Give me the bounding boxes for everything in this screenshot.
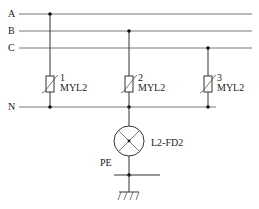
discharge-lamp — [114, 107, 144, 175]
pe-label: PE — [100, 157, 112, 168]
junction-dot-icon — [206, 105, 210, 109]
varistor-2 — [121, 29, 137, 109]
varistor-1-model: MYL2 — [60, 82, 87, 93]
junction-dot-icon — [48, 105, 52, 109]
varistor-3-model: MYL2 — [217, 82, 244, 93]
lamp-label: L2-FD2 — [151, 137, 183, 148]
surge-protection-schematic: A B C N 1 MYL2 2 MYL2 3 MYL2 — [0, 0, 259, 209]
bus-label-a: A — [8, 8, 16, 19]
bus-label-c: C — [8, 42, 15, 53]
varistor-2-model: MYL2 — [138, 82, 165, 93]
ground-icon — [118, 175, 139, 200]
varistor-3 — [200, 46, 216, 109]
varistor-1 — [42, 12, 58, 109]
junction-dot-icon — [206, 46, 210, 50]
bus-label-n: N — [8, 101, 15, 112]
junction-dot-icon — [48, 12, 52, 16]
bus-label-b: B — [8, 25, 15, 36]
junction-dot-icon — [127, 29, 131, 33]
